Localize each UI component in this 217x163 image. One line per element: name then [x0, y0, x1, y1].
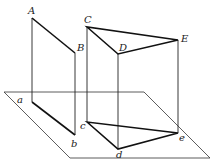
- label-C: C: [84, 14, 92, 25]
- label-b: b: [71, 138, 77, 149]
- label-d: d: [116, 149, 122, 160]
- label-E: E: [180, 33, 189, 44]
- label-c: c: [80, 120, 86, 131]
- label-A: A: [27, 5, 35, 16]
- segment-AB: [32, 18, 75, 53]
- label-e: e: [179, 132, 185, 143]
- triangle-cde: [87, 122, 178, 149]
- segment-ab: [32, 102, 75, 135]
- label-a: a: [17, 94, 23, 105]
- triangle-CDE: [87, 27, 178, 54]
- projection-diagram: A B C D E a b c d e: [0, 0, 217, 163]
- label-B: B: [76, 42, 84, 53]
- label-D: D: [118, 42, 127, 53]
